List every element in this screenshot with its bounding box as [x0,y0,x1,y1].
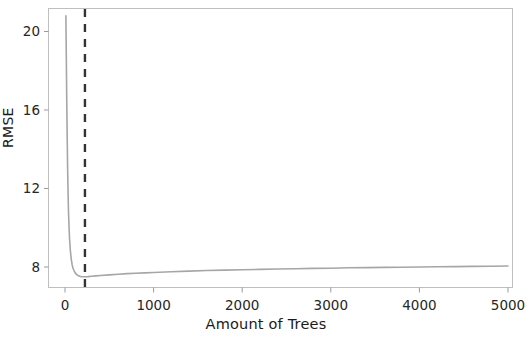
y-tick-label-12: 12 [8,180,40,196]
x-tick-label-3000: 3000 [314,297,348,313]
x-tick-label-2000: 2000 [225,297,259,313]
y-tick-label-8: 8 [8,259,40,275]
x-tick-label-1000: 1000 [136,297,170,313]
x-tick-label-0: 0 [61,297,70,313]
y-tick-label-20: 20 [8,23,40,39]
x-tick-label-5000: 5000 [491,297,525,313]
x-tick-label-4000: 4000 [402,297,436,313]
x-tick-marks [65,288,508,293]
rmse-curve [66,16,508,277]
x-axis-label: Amount of Trees [0,316,532,332]
y-axis-label: RMSE [0,107,16,148]
rmse-vs-trees-chart: 20 16 12 8 0 1000 2000 3000 4000 5000 RM… [0,0,532,340]
plot-canvas [0,0,532,340]
y-tick-marks [44,32,49,268]
plot-frame [49,9,513,288]
